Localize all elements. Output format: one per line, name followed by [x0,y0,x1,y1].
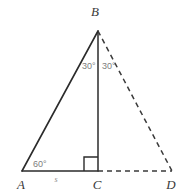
geometry-canvas: B A C D 30° 30° 60° s [0,0,190,196]
angle-label-CBD: 30° [102,61,116,71]
angle-label-BAC: 60° [33,159,47,169]
geometry-figure: B A C D 30° 30° 60° s [0,0,190,196]
right-angle-icon [84,157,98,171]
vertex-label-A: A [16,177,25,192]
vertex-label-D: D [165,177,176,192]
vertex-label-C: C [93,177,102,192]
angle-label-ABC: 30° [82,61,96,71]
vertex-label-B: B [91,4,99,19]
side-label-AC: s [54,175,57,184]
segment-AB [22,31,98,171]
segment-BD-dashed [98,31,172,171]
